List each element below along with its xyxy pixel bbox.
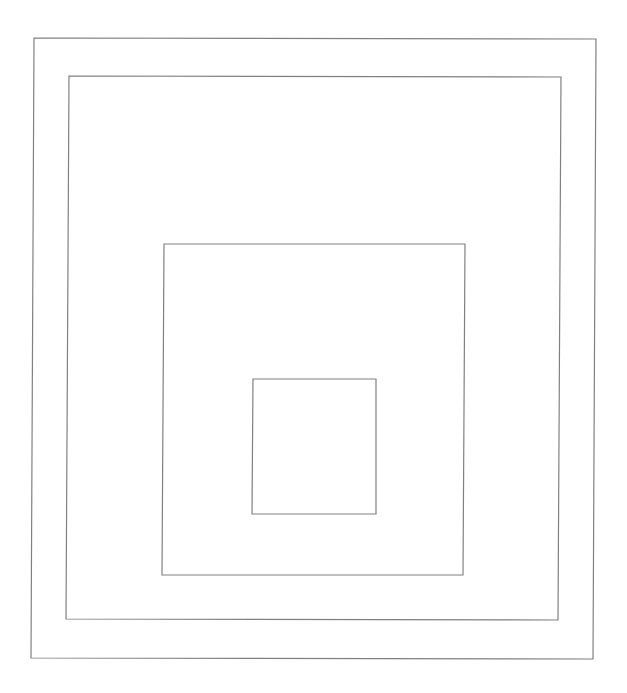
second-square (66, 76, 561, 620)
drawing-canvas (0, 0, 627, 693)
inner-square (252, 379, 376, 514)
nested-squares-diagram (0, 0, 627, 693)
outer-square (31, 38, 596, 659)
third-square (162, 244, 465, 575)
